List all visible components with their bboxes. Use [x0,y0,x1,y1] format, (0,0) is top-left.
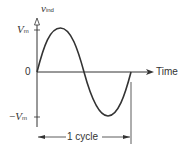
cycle-arrow-right-icon [123,135,130,139]
neg-vm-label: −Vm [9,111,27,122]
cycle-arrow-left-icon [38,135,45,139]
cycle-label: 1 cycle [67,132,98,142]
y-axis-label: vind [41,3,54,14]
x-axis-label: Time [156,67,178,77]
zero-label: 0 [25,67,31,77]
y-axis-arrow-icon [35,18,40,25]
vm-label: Vm [17,24,29,35]
